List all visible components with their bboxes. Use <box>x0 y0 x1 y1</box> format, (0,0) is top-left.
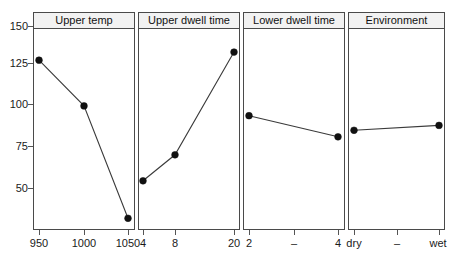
x-tick-label-p0-0: 950 <box>19 238 59 249</box>
x-tick-mark-p3-1 <box>397 230 398 235</box>
x-tick-mark-p1-0 <box>143 230 144 235</box>
x-tick-mark-p1-1 <box>175 230 176 235</box>
x-tick-label-p1-0: 4 <box>133 238 153 249</box>
x-tick-mark-p0-2 <box>128 230 129 235</box>
y-tick-label-100: 100 <box>0 99 28 110</box>
panel-title-lower-dwell-time: Lower dwell time <box>243 12 345 29</box>
y-tick-label-150: 150 <box>0 21 28 32</box>
x-tick-mark-p2-2 <box>338 230 339 235</box>
x-tick-label-p2-0: 2 <box>239 238 259 249</box>
x-tick-mark-p3-0 <box>354 230 355 235</box>
x-tick-mark-p2-1 <box>294 230 295 235</box>
x-tick-label-p1-1: 8 <box>165 238 185 249</box>
x-tick-label-p3-1: – <box>387 238 407 249</box>
x-tick-label-p3-2: wet <box>424 238 452 249</box>
x-tick-mark-p0-0 <box>39 230 40 235</box>
panel-plot-area-upper-dwell-time <box>138 29 240 230</box>
panel-title-environment: Environment <box>348 12 445 29</box>
y-tick-label-50: 50 <box>0 183 28 194</box>
x-tick-mark-p1-2 <box>234 230 235 235</box>
x-tick-label-p3-0: dry <box>340 238 368 249</box>
x-tick-label-p2-1: – <box>284 238 304 249</box>
x-tick-label-p0-1: 1000 <box>64 238 104 249</box>
x-tick-mark-p2-0 <box>249 230 250 235</box>
panel-plot-area-upper-temp <box>33 29 135 230</box>
y-tick-label-75: 75 <box>0 141 28 152</box>
panel-plot-area-lower-dwell-time <box>243 29 345 230</box>
panel-title-upper-dwell-time: Upper dwell time <box>138 12 240 29</box>
panel-title-upper-temp: Upper temp <box>33 12 135 29</box>
y-tick-label-125: 125 <box>0 58 28 69</box>
x-tick-mark-p3-2 <box>439 230 440 235</box>
x-tick-mark-p0-1 <box>84 230 85 235</box>
panel-plot-area-environment <box>348 29 445 230</box>
main-effects-plot: 150 125 100 75 50 Upper temp Upper dwell… <box>0 0 453 260</box>
